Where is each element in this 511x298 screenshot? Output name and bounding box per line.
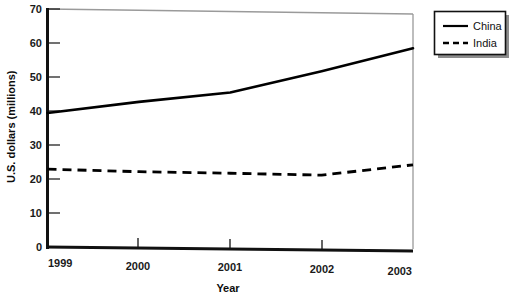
x-tick-label-1999: 1999 xyxy=(48,257,72,269)
x-tick-label-2000: 2000 xyxy=(126,260,150,272)
legend-label-india: India xyxy=(473,37,498,49)
y-tick-label-40: 40 xyxy=(30,105,42,117)
x-axis-title: Year xyxy=(216,282,240,294)
y-tick-label-60: 60 xyxy=(30,37,42,49)
legend: China India xyxy=(435,12,510,59)
chart-canvas: 70 60 50 40 30 20 10 0 U.S. dollars (mil… xyxy=(0,0,511,298)
x-tick-label-2001: 2001 xyxy=(218,261,242,273)
y-tick-label-10: 10 xyxy=(30,207,42,219)
y-tick-label-20: 20 xyxy=(30,173,42,185)
x-tick-label-2003: 2003 xyxy=(388,265,412,277)
x-tick-label-2002: 2002 xyxy=(310,263,334,275)
y-tick-label-50: 50 xyxy=(30,71,42,83)
y-tick-label-30: 30 xyxy=(30,139,42,151)
line-chart: 70 60 50 40 30 20 10 0 U.S. dollars (mil… xyxy=(0,0,511,298)
legend-label-china: China xyxy=(473,20,503,32)
y-tick-label-70: 70 xyxy=(30,3,42,15)
y-axis-title: U.S. dollars (millions) xyxy=(5,70,17,183)
y-tick-label-0: 0 xyxy=(36,241,42,253)
